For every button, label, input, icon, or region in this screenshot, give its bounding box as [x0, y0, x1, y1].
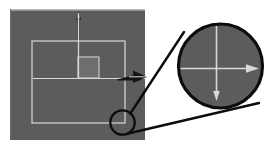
main-field-panel [10, 9, 147, 140]
panel-top-edge-highlight [10, 9, 145, 11]
panel-left-edge-highlight [10, 9, 11, 140]
small-subregion-square [78, 57, 99, 78]
schematic-figure [0, 0, 273, 147]
magnifier-circle [176, 24, 263, 108]
figure-container [0, 0, 273, 147]
